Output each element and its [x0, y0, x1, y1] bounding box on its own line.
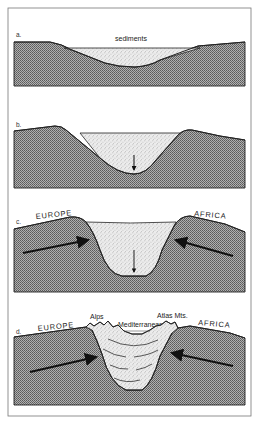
panel-a-label: a.	[16, 31, 22, 38]
panel-c: c. EUROPE AFRICA	[14, 208, 245, 292]
panel-d: d. EUROPE Alps Mediterranean Atlas Mts. …	[14, 312, 245, 405]
sediments-label: sediments	[115, 35, 147, 42]
panel-b-label: b.	[16, 121, 22, 128]
panel-a: a. sediments	[14, 31, 245, 86]
alps-label: Alps	[90, 313, 104, 321]
panel-b: b.	[14, 121, 245, 188]
panel-d-label: d.	[16, 328, 22, 335]
atlas-mts-label: Atlas Mts.	[157, 312, 188, 319]
panel-c-label: c.	[16, 218, 21, 225]
sedimentary-basin-evolution-diagram: a. sediments b. c. EUROPE AFRICA d. EURO…	[0, 0, 261, 425]
